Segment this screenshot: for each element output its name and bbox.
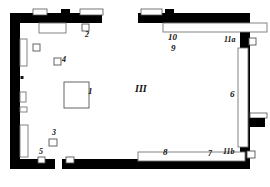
bench-6 bbox=[238, 48, 248, 147]
outer-box-top-a bbox=[33, 9, 47, 15]
right-wall-opening bbox=[250, 113, 267, 127]
niche-left-mid bbox=[20, 92, 26, 102]
pier-top-right bbox=[165, 9, 174, 18]
find-square-4 bbox=[54, 58, 61, 65]
label-7: 7 bbox=[208, 150, 212, 158]
find-square-3 bbox=[49, 139, 57, 146]
niche-left-low bbox=[20, 107, 27, 112]
label-9: 9 bbox=[171, 44, 176, 53]
wall-dot-left bbox=[21, 76, 24, 79]
find-square-left-upper bbox=[33, 44, 40, 51]
find-square-bottom-mid bbox=[66, 157, 74, 163]
niche-left-bottom bbox=[20, 125, 28, 157]
label-1: 1 bbox=[88, 87, 93, 96]
wall-bottom-left-segment bbox=[10, 159, 55, 169]
label-2: 2 bbox=[85, 31, 89, 39]
bench-10-9 bbox=[163, 23, 267, 32]
label-11b: 11b bbox=[223, 148, 235, 156]
bench-top-left bbox=[39, 23, 66, 33]
wall-group bbox=[10, 13, 250, 169]
label-8: 8 bbox=[163, 148, 168, 157]
label-room-III: III bbox=[135, 84, 147, 94]
outer-box-top-c bbox=[141, 9, 162, 15]
right-opening-tab bbox=[250, 118, 265, 127]
label-10: 10 bbox=[168, 33, 177, 42]
label-11a: 11a bbox=[224, 36, 236, 44]
floor-plan-figure: 1 2 3 4 5 6 7 8 9 10 11a 11b III bbox=[0, 0, 270, 187]
outer-box-top-b bbox=[80, 9, 103, 15]
label-3: 3 bbox=[52, 129, 56, 137]
wall-left bbox=[10, 13, 20, 169]
label-5: 5 bbox=[39, 148, 43, 156]
label-4: 4 bbox=[62, 56, 66, 64]
find-square-11a bbox=[249, 38, 256, 45]
right-opening-notch bbox=[250, 113, 267, 118]
label-6: 6 bbox=[230, 90, 235, 99]
find-square-1 bbox=[64, 82, 89, 108]
find-square-11b bbox=[247, 151, 255, 158]
niche-left-upper bbox=[20, 39, 27, 66]
find-square-5 bbox=[38, 157, 45, 163]
pier-top-left bbox=[61, 9, 70, 18]
